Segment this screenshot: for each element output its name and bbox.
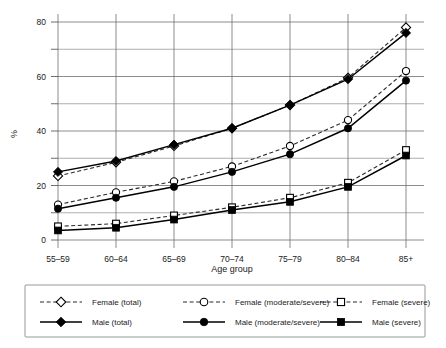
data-point-marker: [229, 207, 236, 214]
legend-label: Female (severe): [372, 298, 431, 307]
data-point-marker: [200, 318, 208, 326]
data-point-marker: [171, 216, 178, 223]
x-tick-label: 70–74: [220, 254, 244, 264]
legend-item[interactable]: Female (moderate/severe): [183, 298, 330, 307]
data-point-marker: [286, 151, 293, 158]
x-tick-label: 80–84: [336, 254, 360, 264]
data-point-marker: [337, 318, 344, 325]
x-axis-title: Age group: [211, 264, 253, 274]
legend-label: Male (moderate/severe): [235, 318, 320, 327]
data-point-marker: [402, 67, 409, 74]
legend-label: Female (moderate/severe): [235, 298, 330, 307]
x-tick-label: 55–59: [46, 254, 70, 264]
data-point-marker: [170, 183, 177, 190]
data-point-marker: [286, 142, 293, 149]
data-point-marker: [112, 194, 119, 201]
data-point-marker: [345, 183, 352, 190]
x-tick-label: 85+: [399, 254, 413, 264]
x-tick-label: 75–79: [278, 254, 302, 264]
data-point-marker: [402, 77, 409, 84]
chart-figure: 020406080 55–5960–6465–6970–7475–7980–84…: [0, 0, 446, 348]
data-point-marker: [287, 198, 294, 205]
y-tick-label: 40: [37, 126, 47, 136]
data-point-marker: [337, 298, 344, 305]
data-point-marker: [54, 205, 61, 212]
data-point-marker: [228, 168, 235, 175]
y-tick-label: 60: [37, 72, 47, 82]
y-axis-title: %: [9, 130, 19, 138]
data-point-marker: [55, 227, 62, 234]
x-tick-label: 60–64: [104, 254, 128, 264]
data-point-marker: [113, 224, 120, 231]
data-point-marker: [344, 125, 351, 132]
legend-label: Male (total): [92, 318, 132, 327]
y-tick-label: 80: [37, 17, 47, 27]
y-tick-label: 20: [37, 181, 47, 191]
legend-label: Male (severe): [372, 318, 421, 327]
legend-item[interactable]: Male (moderate/severe): [183, 318, 320, 327]
legend-label: Female (total): [92, 298, 142, 307]
data-point-marker: [344, 117, 351, 124]
y-tick-label: 0: [41, 235, 46, 245]
data-point-marker: [200, 298, 208, 306]
x-tick-label: 65–69: [162, 254, 186, 264]
line-chart: 020406080 55–5960–6465–6970–7475–7980–84…: [0, 0, 446, 348]
data-point-marker: [403, 152, 410, 159]
